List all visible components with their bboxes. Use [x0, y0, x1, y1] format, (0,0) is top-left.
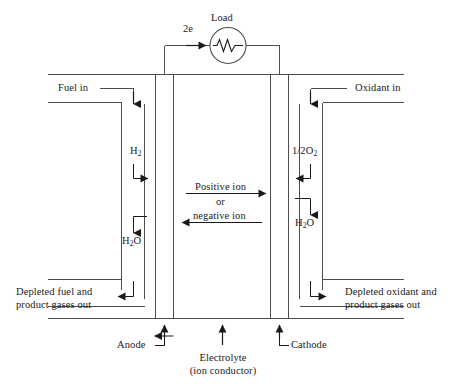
oxidant-in-label: Oxidant in — [355, 82, 401, 94]
hydrogen-symbol: H — [130, 145, 138, 156]
cathode-label: Cathode — [291, 339, 327, 351]
fuel-in-label: Fuel in — [58, 82, 88, 94]
positive-ion-label: Positive ion — [195, 181, 246, 193]
oxygen-label: 1/2O2 — [292, 145, 317, 160]
oxygen-subscript: 2 — [313, 149, 317, 158]
electron-label: 2e — [183, 23, 193, 35]
h2-arrow — [134, 164, 149, 179]
oxygen-arrow — [296, 164, 311, 179]
water-left-label: H2O — [122, 235, 141, 250]
electrolyte-label: Electrolyte (ion conductor) — [173, 351, 273, 377]
anode-leader — [155, 336, 165, 345]
anode-label: Anode — [117, 339, 146, 351]
or-label: or — [216, 196, 225, 208]
hydrogen-label: H2 — [130, 145, 142, 160]
cathode-leader — [280, 338, 290, 345]
negative-ion-label: negative ion — [193, 210, 246, 222]
depleted-oxidant-label: Depleted oxidant and product gases out — [345, 285, 457, 311]
load-label: Load — [211, 12, 233, 24]
fuel-cell-diagram: Load 2e Fuel in Oxidant in H2 1/2O2 H2O … — [0, 0, 457, 384]
h2o-right-arrow — [295, 199, 311, 216]
water-right-label: H2O — [295, 217, 314, 232]
depleted-fuel-label: Depleted fuel and product gases out — [16, 285, 126, 311]
hydrogen-subscript: 2 — [138, 149, 142, 158]
depleted-oxidant-arrow — [311, 281, 327, 297]
oxygen-fraction: 1/2O — [292, 145, 313, 156]
